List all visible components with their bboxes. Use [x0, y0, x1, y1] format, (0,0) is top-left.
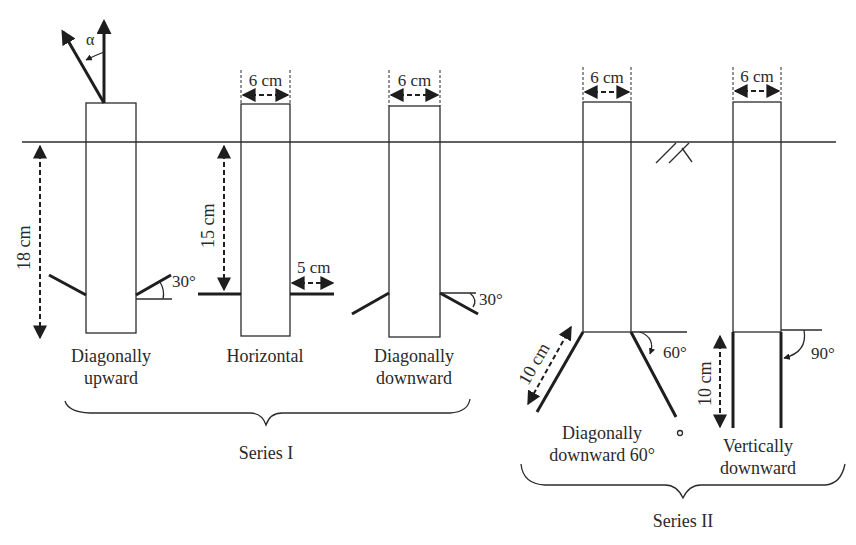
series-2-label: Series II — [653, 511, 713, 531]
depth-label-18: 18 cm — [14, 226, 34, 271]
label-diagonally-upward-1: Diagonally — [71, 346, 151, 366]
pull-inclined-arrow-icon — [63, 32, 104, 103]
label-diagonally-upward-2: upward — [84, 368, 138, 388]
leg-length-label-60: 10 cm — [514, 339, 554, 388]
anchor-diagonally-downward-60: 6 cm 60° 10 cm Diagonally downward 60° — [514, 67, 687, 465]
ground-hatch-icon — [656, 143, 692, 163]
depth-label-15: 15 cm — [198, 204, 218, 249]
anchor-diagonally-downward: 6 cm 30° Diagonally downward — [352, 70, 503, 388]
anchor-diagonally-upward: α 30° 18 cm Diagonally upward — [14, 22, 196, 388]
label-vertically-downward-2: downward — [720, 458, 796, 478]
alpha-label: α — [86, 31, 95, 48]
width-label-5: 6 cm — [740, 67, 774, 86]
width-label-4: 6 cm — [590, 68, 624, 87]
label-diagonally-downward-1: Diagonally — [374, 346, 454, 366]
width-label-3: 6 cm — [398, 71, 432, 90]
series-2-brace — [521, 464, 845, 498]
series-1-label: Series I — [239, 443, 293, 463]
anchor-pullout-diagram: α 30° 18 cm Diagonally upward 6 cm 15 cm… — [0, 0, 856, 545]
width-label-2: 6 cm — [249, 71, 283, 90]
angle-label-1: 30° — [172, 272, 196, 291]
label-diagonally-downward-60-1: Diagonally — [562, 423, 642, 443]
label-vertically-downward-1: Vertically — [723, 436, 793, 456]
leg-length-label-90: 10 cm — [695, 362, 715, 407]
angle-label-90: 90° — [811, 344, 835, 363]
angle-label-60: 60° — [663, 343, 687, 362]
anchor-vertically-downward: 6 cm 90° 10 cm Vertically downward — [695, 67, 835, 478]
series-1-brace — [65, 399, 470, 425]
anchor-horizontal: 6 cm 15 cm 5 cm Horizontal — [198, 70, 334, 366]
label-diagonally-downward-2: downward — [376, 368, 452, 388]
wing-length-label-5: 5 cm — [297, 258, 331, 277]
angle-label-3: 30° — [479, 290, 503, 309]
label-horizontal: Horizontal — [227, 346, 304, 366]
label-diagonally-downward-60-2: downward 60° — [549, 445, 655, 465]
